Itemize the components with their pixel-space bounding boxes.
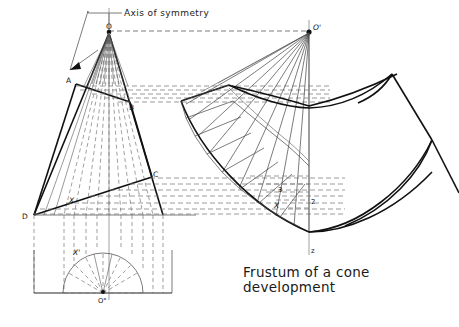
plan-center-marker <box>101 290 105 294</box>
pattern-development-view: O' <box>181 20 459 255</box>
title-line-1: Frustum of a cone <box>243 264 370 280</box>
label-station-3: 3 <box>278 186 282 194</box>
cone-leader-arrow <box>70 11 98 70</box>
frustum-cut-lines <box>34 84 152 215</box>
plan-radials <box>63 253 143 293</box>
label-apex-development: O' <box>313 23 321 32</box>
drawing-title: Frustum of a cone development <box>243 264 370 295</box>
label-point-b: B <box>129 103 134 112</box>
label-generator-x-plan: X' <box>72 248 80 257</box>
label-point-a: A <box>66 76 72 85</box>
label-plan-center: O" <box>98 297 106 305</box>
plan-semicircle-arc <box>63 253 143 293</box>
label-generator-x-front: X <box>68 196 75 205</box>
plan-projection-verticals <box>34 215 163 293</box>
plan-semicircle-view: O" X' <box>34 248 172 305</box>
label-station-2: 2 <box>311 198 315 206</box>
drawing-canvas: A B C D O X <box>0 0 459 327</box>
title-line-2: development <box>243 279 335 295</box>
label-apex-front: O <box>106 22 112 31</box>
axis-of-symmetry-label: Axis of symmetry <box>124 8 209 18</box>
label-generator-x-dev: X <box>273 201 280 210</box>
front-elevation-view: A B C D O X <box>22 8 309 300</box>
label-vertical-z: z <box>311 247 315 255</box>
development-right-outline <box>309 74 459 232</box>
projection-lines-lower <box>34 178 345 214</box>
label-point-d: D <box>22 212 28 221</box>
technical-drawing-svg: A B C D O X <box>0 0 459 327</box>
development-outer-arc <box>181 101 432 232</box>
axis-leader <box>88 11 122 31</box>
